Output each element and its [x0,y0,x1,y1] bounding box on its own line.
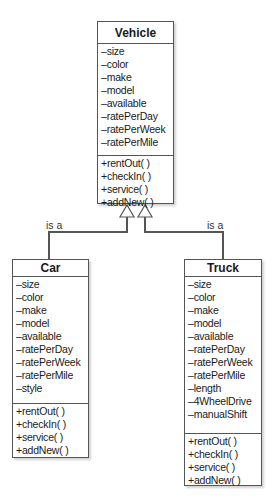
attribute: –color [188,291,261,304]
attribute: –ratePerDay [16,343,88,356]
attribute: –length [188,382,261,395]
attribute: –make [188,304,261,317]
attribute: –available [101,97,173,110]
class-truck: Truck –size –color –make –model –availab… [184,259,262,486]
method: +addNew( ) [101,196,173,209]
attribute: –model [101,84,173,97]
method: +rentOut( ) [101,157,173,170]
attribute: –ratePerMile [188,369,261,382]
truck-is-a-label: is a [207,219,223,231]
attribute: –ratePerDay [101,110,173,123]
method: +addNew( ) [188,474,261,487]
method: +service( ) [101,183,173,196]
methods-section: +rentOut( ) +checkIn( ) +service( ) +add… [185,434,261,489]
class-vehicle: Vehicle –size –color –make –model –avail… [97,21,174,204]
method: +checkIn( ) [16,418,88,431]
attribute: –size [16,278,88,291]
method: +rentOut( ) [188,435,261,448]
class-name: Truck [185,260,261,277]
class-name: Vehicle [98,22,173,44]
attribute: –manualShift [188,408,261,421]
method: +rentOut( ) [16,405,88,418]
attribute: –make [16,304,88,317]
attribute: –4WheelDrive [188,395,261,408]
attributes-section: –size –color –make –model –available –ra… [13,277,88,404]
attribute: –style [16,382,88,395]
method: +checkIn( ) [101,170,173,183]
class-car: Car –size –color –make –model –available… [12,259,89,458]
attribute: –size [188,278,261,291]
attribute: –ratePerWeek [16,356,88,369]
method: +service( ) [188,461,261,474]
attribute: –ratePerWeek [188,356,261,369]
attribute: –size [101,45,173,58]
attribute: –ratePerWeek [101,123,173,136]
class-name: Car [13,260,88,277]
attribute: –ratePerMile [16,369,88,382]
methods-section: +rentOut( ) +checkIn( ) +service( ) +add… [98,156,173,211]
attributes-section: –size –color –make –model –available –ra… [98,44,173,156]
attribute: –make [101,71,173,84]
method: +checkIn( ) [188,448,261,461]
attribute: –color [16,291,88,304]
method: +addNew( ) [16,444,88,457]
attribute: –available [16,330,88,343]
methods-section: +rentOut( ) +checkIn( ) +service( ) +add… [13,404,88,459]
attribute: –available [188,330,261,343]
attribute: –model [188,317,261,330]
attribute: –model [16,317,88,330]
method: +service( ) [16,431,88,444]
attribute: –color [101,58,173,71]
attribute: –ratePerDay [188,343,261,356]
car-is-a-label: is a [46,219,62,231]
attributes-section: –size –color –make –model –available –ra… [185,277,261,434]
attribute: –ratePerMile [101,136,173,149]
